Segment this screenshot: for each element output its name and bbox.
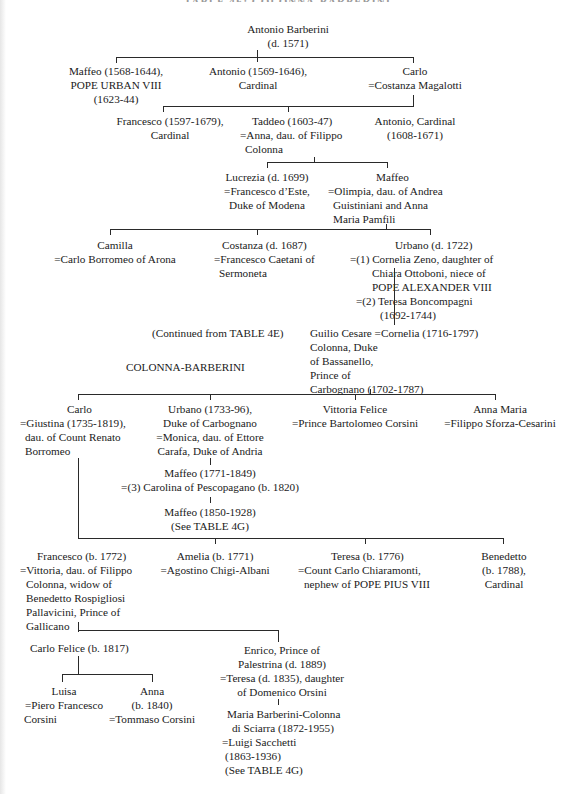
connector (110, 229, 111, 235)
node-line: Antonio Barberini (208, 22, 368, 36)
node-anna-1840: Anna (b. 1840) =Tommaso Corsini (102, 684, 202, 726)
connector (288, 106, 289, 112)
genealogy-table: TABLE 4F: COLONNA-BARBERINI Antonio Barb… (0, 0, 571, 794)
node-line: Maffeo (328, 170, 468, 184)
node-line: =Olimpia, dau. of Andrea (328, 184, 468, 198)
node-line: =Prince Bartolomeo Corsini (290, 416, 420, 430)
node-line: Luisa (14, 684, 114, 698)
connector (152, 674, 153, 682)
connector (278, 630, 279, 642)
connector (257, 229, 258, 235)
node-line: Benedetto (470, 549, 538, 563)
node-line: (1608-1671) (365, 128, 465, 142)
node-line: Pallavicini, Prince of (20, 605, 150, 619)
connector (78, 538, 504, 539)
node-line: Maffeo (1568-1644), (56, 64, 176, 78)
connector (278, 699, 279, 705)
node-carlo-felice: Carlo Felice (b. 1817) (30, 641, 129, 655)
node-line: =Francesco d’Este, (212, 184, 322, 198)
node-enrico: Enrico, Prince of Palestrina (d. 1889) =… (212, 643, 352, 699)
node-line: Duke of Carbognano (150, 416, 270, 430)
connector (210, 458, 211, 465)
node-lucrezia: Lucrezia (d. 1699) =Francesco d’Este, Du… (212, 170, 322, 212)
connector (365, 538, 366, 544)
connector (78, 394, 496, 395)
node-line: of Domenico Orsini (212, 685, 352, 699)
node-line: Guilio Cesare =Cornelia (1716-1797) (310, 326, 510, 340)
node-line: Palestrina (d. 1889) (212, 657, 352, 671)
node-line: Carlo (360, 64, 470, 78)
node-line: Maffeo (1850-1928) (150, 505, 270, 519)
node-line: Benedetto Rospigliosi (20, 591, 150, 605)
node-line: =Luigi Sacchetti (222, 735, 362, 749)
node-line: Francesco (1597-1679), (110, 114, 230, 128)
connector (78, 630, 279, 631)
node-line: dau. of Count Renato (20, 430, 140, 444)
connector (210, 497, 211, 503)
node-line: (See TABLE 4G) (150, 519, 270, 533)
connector (62, 674, 153, 675)
node-line: =Teresa (d. 1835), daughter (212, 671, 352, 685)
node-vittoria-felice: Vittoria Felice =Prince Bartolomeo Corsi… (290, 402, 420, 430)
node-line: =Piero Francesco (14, 698, 114, 712)
node-francesco-cardinal: Francesco (1597-1679), Cardinal (110, 114, 230, 142)
node-line: Cardinal (110, 128, 230, 142)
node-line: =(2) Teresa Boncompagni (350, 294, 550, 308)
node-line: Colonna (240, 142, 370, 156)
node-line: =Costanza Magalotti (360, 78, 470, 92)
node-line: POPE ALEXANDER VIII (350, 280, 550, 294)
node-line: Cardinal (470, 577, 538, 591)
node-line: Teresa (b. 1776) (298, 549, 438, 563)
node-line: (See TABLE 4G) (222, 763, 362, 777)
node-francesco-1772: Francesco (b. 1772) =Vittoria, dau. of F… (20, 549, 150, 633)
node-line: Antonio (1569-1646), (198, 64, 318, 78)
node-line: =Agostino Chigi-Albani (155, 563, 275, 577)
node-maffeo-urban-viii: Maffeo (1568-1644), POPE URBAN VIII (162… (56, 64, 176, 106)
node-line: (1623-44) (56, 92, 176, 106)
connector (394, 268, 395, 325)
node-line: Urbano (d. 1722) (350, 238, 550, 252)
node-line: =(1) Cornelia Zeno, daughter of (350, 252, 550, 266)
node-line: Chiara Ottoboni, niece of (350, 266, 550, 280)
node-antonio-cardinal: Antonio (1569-1646), Cardinal (198, 64, 318, 92)
node-line: Borromeo (20, 444, 140, 458)
node-guilio-cesare: Guilio Cesare =Cornelia (1716-1797) Colo… (310, 326, 510, 396)
node-line: Corsini (14, 712, 114, 726)
node-taddeo: Taddeo (1603-47) =Anna, dau. of Filippo … (240, 114, 370, 156)
node-antonio-cardinal-1608: Antonio, Cardinal (1608-1671) (365, 114, 465, 142)
node-line: Guistiniani and Anna (328, 198, 468, 212)
node-line: Anna (102, 684, 202, 698)
node-line: =Carlo Borromeo of Arona (45, 252, 185, 266)
connector (257, 50, 258, 62)
connector (267, 162, 388, 163)
connector (430, 229, 431, 235)
node-maffeo-1850: Maffeo (1850-1928) (See TABLE 4G) (150, 505, 270, 533)
node-teresa-1776: Teresa (b. 1776) =Count Carlo Chiaramont… (298, 549, 438, 591)
node-carlo-borromeo: Carlo =Giustina (1735-1819), dau. of Cou… (20, 402, 140, 458)
node-line: =Tommaso Corsini (102, 712, 202, 726)
node-line: =Monica, dau. of Ettore (150, 430, 270, 444)
node-line: nephew of POPE PIUS VIII (298, 577, 438, 591)
node-line: di Sciarra (1872-1955) (222, 721, 362, 735)
node-maffeo-pamfili: Maffeo =Olimpia, dau. of Andrea Guistini… (328, 170, 468, 226)
node-line: Maria Barberini-Colonna (222, 707, 362, 721)
node-line: Sermoneta (210, 266, 350, 280)
connector (78, 656, 79, 675)
node-line: Enrico, Prince of (212, 643, 352, 657)
connector (387, 162, 388, 168)
node-line: Maria Pamfili (328, 212, 468, 226)
node-line: Antonio, Cardinal (365, 114, 465, 128)
node-line: Taddeo (1603-47) (240, 114, 370, 128)
node-antonio-barberini: Antonio Barberini (d. 1571) (208, 22, 368, 50)
node-line: =Francesco Caetani of (210, 252, 350, 266)
node-line: of Bassanello, (310, 354, 510, 368)
node-line: (b. 1788), (470, 563, 538, 577)
node-line: =Count Carlo Chiaramonti, (298, 563, 438, 577)
node-line: Lucrezia (d. 1699) (212, 170, 322, 184)
node-line: =Vittoria, dau. of Filippo (20, 563, 150, 577)
node-benedetto: Benedetto (b. 1788), Cardinal (470, 549, 538, 591)
connector (163, 106, 164, 112)
node-line: Amelia (b. 1771) (155, 549, 275, 563)
node-line: Carlo (20, 402, 140, 416)
node-line: Carafa, Duke of Andria (150, 444, 270, 458)
